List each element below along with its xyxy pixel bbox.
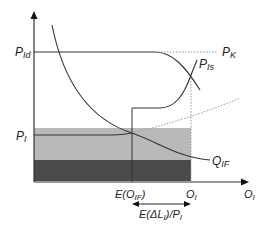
label-o-i-tick: OI	[186, 188, 198, 202]
pis-step-curve	[132, 60, 197, 108]
label-expected-difference: E(ΔLI)/PI	[139, 208, 183, 222]
arrow-right-icon	[184, 201, 191, 207]
label-e-oif: E(OIF)	[115, 188, 146, 202]
label-p-k: PK	[222, 45, 237, 60]
economic-diagram: PId PK PIs PI QIF E(OIF) OI OI E(ΔLI)/PI	[0, 0, 269, 231]
pi-dotted-curve	[132, 98, 240, 133]
x-axis-arrow-icon	[241, 179, 249, 186]
label-p-id: PId	[15, 45, 32, 60]
label-p-i: PI	[16, 129, 27, 144]
label-q-if: QIF	[212, 154, 230, 169]
dark-shaded-band	[34, 160, 191, 181]
y-axis-arrow-icon	[31, 11, 38, 19]
upper-supply-curve	[34, 52, 200, 90]
light-shaded-band	[34, 128, 191, 160]
label-p-is: PIs	[199, 57, 215, 72]
label-o-i-axis: OI	[244, 188, 256, 202]
